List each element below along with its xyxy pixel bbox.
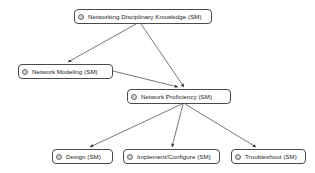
node-troubleshoot[interactable]: Troubleshoot (SM)	[231, 149, 306, 164]
concept-map-diagram: Networking Disciplinary Knowledge (SM) N…	[0, 0, 315, 173]
node-bullet-icon	[235, 154, 241, 160]
edge-network-modeling-to-network-proficiency	[113, 71, 178, 87]
node-bullet-icon	[56, 154, 62, 160]
edge-network-proficiency-to-implement-configure	[172, 104, 183, 147]
node-bullet-icon	[131, 94, 137, 100]
edge-networking-disciplinary-knowledge-to-network-modeling	[68, 24, 136, 62]
node-network-modeling[interactable]: Network Modeling (SM)	[18, 64, 113, 79]
edge-network-proficiency-to-troubleshoot	[185, 104, 256, 147]
node-label: Network Modeling (SM)	[32, 68, 100, 75]
node-design[interactable]: Design (SM)	[52, 149, 113, 164]
edge-layer	[0, 0, 315, 173]
node-label: Network Proficiency (SM)	[141, 93, 214, 100]
node-bullet-icon	[22, 69, 28, 75]
node-label: Design (SM)	[66, 153, 103, 160]
node-networking-disciplinary-knowledge[interactable]: Networking Disciplinary Knowledge (SM)	[74, 9, 212, 24]
edge-networking-disciplinary-knowledge-to-network-proficiency	[141, 24, 184, 87]
node-bullet-icon	[78, 14, 84, 20]
node-label: Troubleshoot (SM)	[245, 153, 299, 160]
node-network-proficiency[interactable]: Network Proficiency (SM)	[127, 89, 231, 104]
node-implement-configure[interactable]: Implement/Configure (SM)	[123, 149, 220, 164]
edge-network-proficiency-to-design	[90, 104, 182, 147]
node-label: Implement/Configure (SM)	[137, 153, 213, 160]
node-bullet-icon	[127, 154, 133, 160]
node-label: Networking Disciplinary Knowledge (SM)	[88, 13, 204, 20]
